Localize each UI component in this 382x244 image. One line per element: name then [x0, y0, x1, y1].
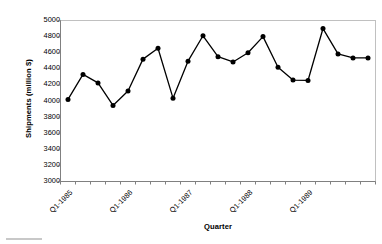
data-point-marker: [141, 57, 146, 62]
data-point-marker: [321, 26, 326, 31]
data-point-marker: [351, 55, 356, 60]
data-point-marker: [156, 46, 161, 51]
data-point-marker: [126, 88, 131, 93]
data-point-marker: [186, 59, 191, 64]
data-point-marker: [111, 103, 116, 108]
data-point-marker: [276, 65, 281, 70]
data-point-marker: [291, 78, 296, 83]
data-point-marker: [336, 51, 341, 56]
data-point-marker: [66, 97, 71, 102]
data-point-marker: [306, 78, 311, 83]
data-point-marker: [171, 96, 176, 101]
data-point-marker: [201, 33, 206, 38]
data-point-marker: [96, 80, 101, 85]
data-point-marker: [261, 34, 266, 39]
data-point-marker: [366, 55, 371, 60]
data-point-marker: [231, 59, 236, 64]
x-axis-title: Quarter: [60, 222, 376, 231]
data-point-marker: [246, 50, 251, 55]
footer-rule: [6, 238, 42, 240]
line-chart: Shipments (million $) 500048004600440042…: [0, 0, 382, 244]
plot-border: [61, 21, 376, 182]
plot-area: [0, 0, 382, 244]
data-point-marker: [81, 72, 86, 77]
data-point-marker: [216, 54, 221, 59]
